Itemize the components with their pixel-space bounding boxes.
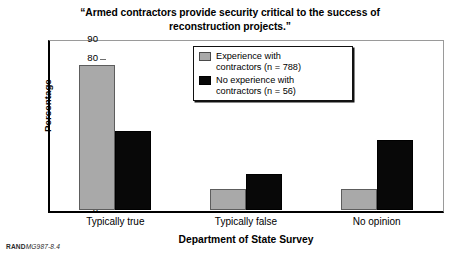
legend-entry: Experience with contractors (n = 788) xyxy=(199,51,347,72)
x-axis-tick-label: No opinion xyxy=(311,216,442,227)
bar xyxy=(377,140,413,210)
bar-group xyxy=(79,40,151,210)
bar xyxy=(115,131,151,210)
bar xyxy=(246,174,282,210)
legend-swatch-black-icon xyxy=(199,76,211,85)
legend-label: Experience with contractors (n = 788) xyxy=(216,51,301,72)
legend-swatch-gray-icon xyxy=(199,52,211,61)
chart-legend: Experience with contractors (n = 788) No… xyxy=(193,46,353,101)
bar xyxy=(341,189,377,210)
source-organization: RAND xyxy=(6,243,26,250)
chart-title: “Armed contractors provide security crit… xyxy=(60,6,400,33)
x-axis-tick-label: Typically false xyxy=(181,216,312,227)
x-axis-tick-labels: Typically trueTypically falseNo opinion xyxy=(50,216,442,232)
source-note: RANDMG987-8.4 xyxy=(6,243,60,250)
chart-figure: “Armed contractors provide security crit… xyxy=(0,0,454,267)
figure-code: MG987-8.4 xyxy=(26,243,60,250)
bar xyxy=(210,189,246,210)
x-axis-title: Department of State Survey xyxy=(48,234,444,245)
bar xyxy=(79,65,115,210)
legend-entry: No experience with contractors (n = 56) xyxy=(199,75,347,96)
legend-label: No experience with contractors (n = 56) xyxy=(216,75,296,96)
x-axis-tick-label: Typically true xyxy=(50,216,181,227)
